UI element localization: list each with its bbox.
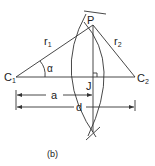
label-j: J [86, 80, 92, 92]
label-r1: r1 [44, 35, 52, 48]
label-d: d [76, 101, 82, 113]
angle-arc [40, 61, 45, 77]
caption: (b) [47, 149, 58, 159]
right-angle-marker [93, 73, 97, 77]
label-p: P [87, 14, 94, 26]
segment-r1 [16, 25, 93, 77]
arc-right [84, 22, 104, 136]
label-r2: r2 [114, 35, 122, 48]
label-a: a [51, 89, 58, 101]
segment-r2 [93, 25, 135, 77]
label-c1: C1 [4, 71, 16, 84]
circle-intersection-diagram: P C1 C2 J r1 r2 α a d (b) [0, 0, 155, 166]
label-alpha: α [47, 63, 53, 74]
label-c2: C2 [137, 72, 149, 85]
